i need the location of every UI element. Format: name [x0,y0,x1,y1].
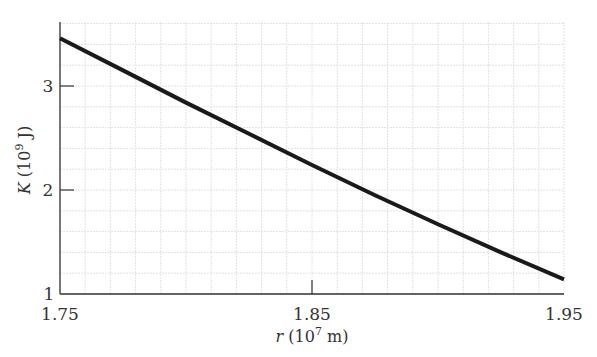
y-tick-label-2: 3 [43,76,54,96]
grid-lines [60,22,564,294]
x-axis-title: r (107 m) [276,325,349,346]
y-tick-label-1: 2 [43,180,54,200]
y-axis-title: K (109 J) [13,126,34,195]
line-chart: 1.75 1.85 1.95 1 2 3 r (107 m) K (109 J) [0,0,597,357]
x-tick-label-2: 1.95 [545,304,583,324]
x-tick-label-1: 1.85 [293,304,331,324]
x-tick-label-0: 1.75 [41,304,79,324]
y-tick-label-0: 1 [44,284,55,304]
